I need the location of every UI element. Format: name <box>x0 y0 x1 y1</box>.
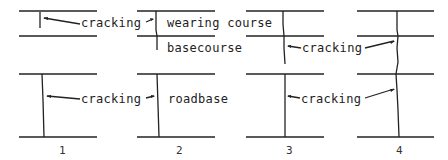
stage-number-1: 1 <box>59 145 66 156</box>
cracking-label-top: cracking <box>81 17 141 29</box>
cracking-label-low-right: cracking <box>301 93 361 105</box>
roadbase-label: roadbase <box>168 93 228 105</box>
wearing-course-label: wearing course <box>167 17 272 29</box>
cracking-label-low-left: cracking <box>81 93 141 105</box>
stage-number-4: 4 <box>396 145 403 156</box>
leader-lines <box>44 18 394 99</box>
basecourse-label: basecourse <box>167 42 242 54</box>
stage-number-2: 2 <box>176 145 183 156</box>
stage-number-3: 3 <box>286 145 293 156</box>
cracking-label-mid: cracking <box>302 42 362 54</box>
